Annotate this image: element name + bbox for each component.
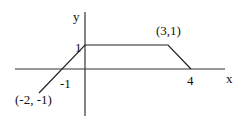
x-tick-4: 4	[187, 73, 194, 88]
point-label-corner: (3,1)	[156, 23, 181, 38]
point-label-start: (-2, -1)	[15, 92, 52, 107]
x-axis-label: x	[226, 71, 233, 86]
y-tick-1: 1	[75, 40, 82, 55]
piecewise-graph: y x 1 -1 4 (-2, -1) (3,1)	[0, 0, 243, 120]
y-axis-label: y	[73, 9, 80, 24]
x-tick-neg1: -1	[60, 76, 71, 91]
